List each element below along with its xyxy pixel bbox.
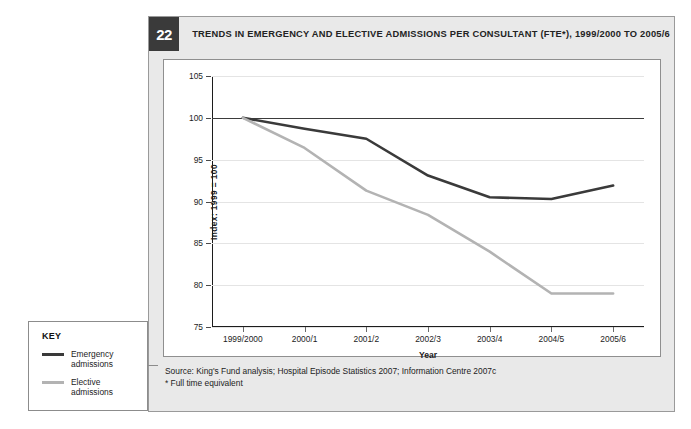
key-swatch-1 — [42, 381, 64, 384]
source-line: Source: King's Fund analysis; Hospital E… — [165, 365, 665, 377]
y-tick-label-90: 90 — [194, 197, 203, 207]
plot-area: 1051009590858075 1999/20002000/12001/220… — [212, 76, 644, 327]
y-tick-label-95: 95 — [194, 155, 203, 165]
y-tick-100 — [206, 118, 211, 119]
x-tick-2002-3 — [428, 327, 429, 332]
y-axis-title: Index: 1999 = 100 — [209, 164, 219, 240]
x-axis-title: Year — [212, 350, 644, 360]
y-tick-label-85: 85 — [194, 238, 203, 248]
key-box: KEY EmergencyadmissionsElectiveadmission… — [28, 321, 148, 411]
key-label-line2: admissions — [71, 387, 113, 397]
x-tick-label-2002-3: 2002/3 — [415, 334, 441, 344]
x-tick-label-1999-2000: 1999/2000 — [223, 334, 263, 344]
x-tick-label-2000-1: 2000/1 — [292, 334, 318, 344]
key-label-line1: Elective — [71, 377, 113, 387]
y-tick-105 — [206, 76, 211, 77]
key-label-line2: admissions — [71, 359, 113, 369]
x-tick-label-2005-6: 2005/6 — [600, 334, 626, 344]
x-tick-2000-1 — [305, 327, 306, 332]
series-lines — [212, 76, 644, 327]
source-note: Source: King's Fund analysis; Hospital E… — [165, 365, 665, 389]
x-tick-2003-4 — [490, 327, 491, 332]
chart-card: 1051009590858075 1999/20002000/12001/220… — [163, 59, 661, 357]
key-connector-line — [148, 365, 158, 366]
key-label-line1: Emergency — [71, 349, 113, 359]
key-label-0: Emergencyadmissions — [71, 349, 113, 370]
key-title: KEY — [42, 331, 147, 341]
y-tick-label-80: 80 — [194, 280, 203, 290]
y-tick-label-100: 100 — [189, 113, 203, 123]
y-tick-95 — [206, 160, 211, 161]
x-tick-2001-2 — [366, 327, 367, 332]
x-tick-label-2003-4: 2003/4 — [477, 334, 503, 344]
x-tick-2004-5 — [551, 327, 552, 332]
figure-number-badge: 22 — [149, 17, 179, 51]
series-line-emergency-admissions — [243, 118, 613, 199]
key-label-1: Electiveadmissions — [71, 377, 113, 398]
y-tick-85 — [206, 243, 211, 244]
key-entry-1: Electiveadmissions — [42, 377, 147, 398]
figure-title-bar: 22 TRENDS IN EMERGENCY AND ELECTIVE ADMI… — [149, 17, 676, 51]
x-tick-label-2001-2: 2001/2 — [353, 334, 379, 344]
key-items: EmergencyadmissionsElectiveadmissions — [42, 349, 147, 397]
figure-title: TRENDS IN EMERGENCY AND ELECTIVE ADMISSI… — [179, 17, 676, 51]
key-swatch-0 — [42, 353, 64, 356]
x-tick-1999-2000 — [243, 327, 244, 332]
key-entry-0: Emergencyadmissions — [42, 349, 147, 370]
figure-panel: 22 TRENDS IN EMERGENCY AND ELECTIVE ADMI… — [148, 16, 675, 412]
y-tick-80 — [206, 285, 211, 286]
x-tick-label-2004-5: 2004/5 — [539, 334, 565, 344]
x-tick-2005-6 — [613, 327, 614, 332]
y-tick-75 — [206, 327, 211, 328]
y-tick-label-75: 75 — [194, 322, 203, 332]
footnote-line: * Full time equivalent — [165, 377, 665, 389]
series-line-elective-admissions — [243, 118, 613, 294]
y-tick-label-105: 105 — [189, 71, 203, 81]
